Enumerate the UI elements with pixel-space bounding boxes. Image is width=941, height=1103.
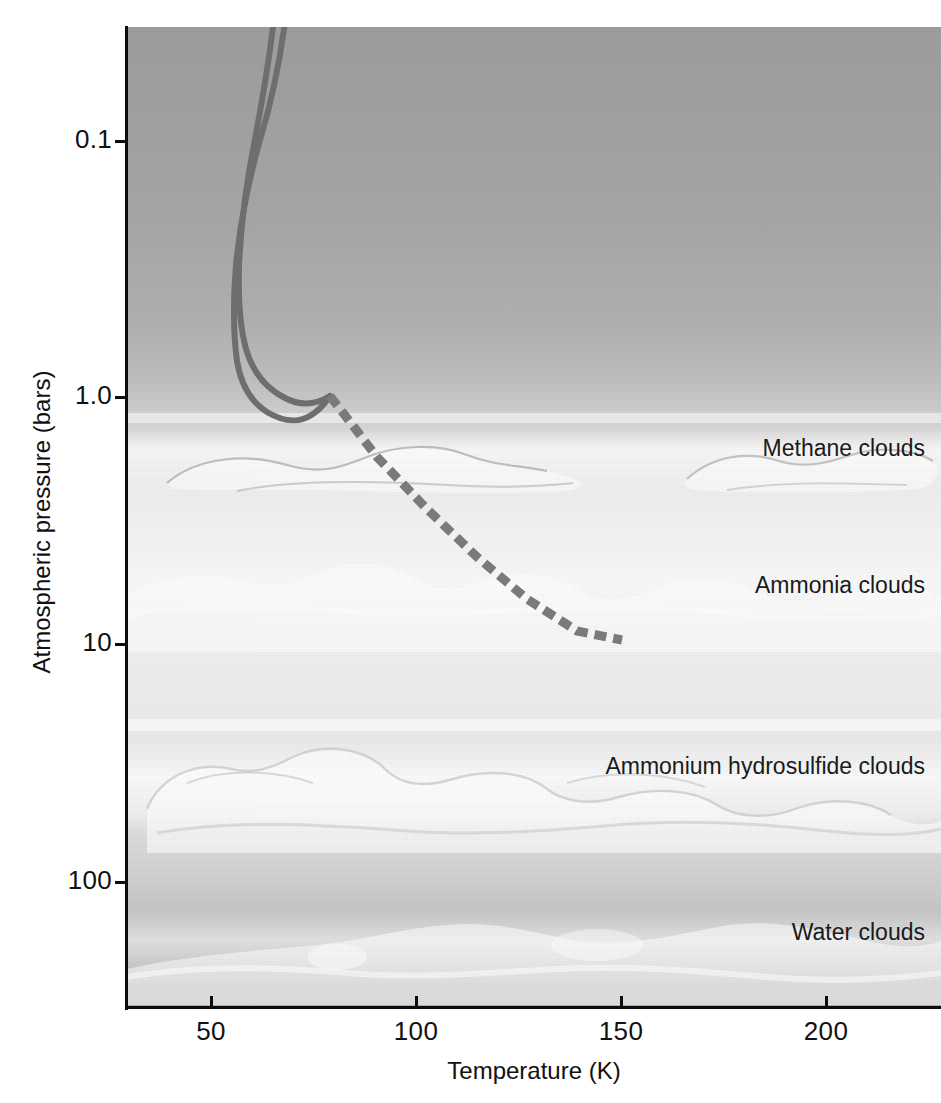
x-tick-200 — [825, 996, 828, 1009]
x-tick-label-100: 100 — [355, 1016, 477, 1047]
x-tick-50 — [210, 996, 213, 1009]
plot-area: Methane clouds Ammonia clouds Ammonium h… — [127, 27, 941, 1008]
y-tick-0.1 — [115, 140, 128, 143]
profile-solid — [239, 27, 330, 404]
x-axis-line — [125, 1006, 941, 1009]
y-tick-label-10: 10 — [0, 627, 112, 658]
y-tick-label-0.1: 0.1 — [0, 124, 112, 155]
temperature-profile-curve — [127, 27, 941, 1008]
y-tick-label-100: 100 — [0, 865, 112, 896]
cloud-label-ammonia: Ammonia clouds — [755, 572, 925, 599]
x-tick-label-150: 150 — [560, 1016, 682, 1047]
y-tick-100 — [115, 881, 128, 884]
y-tick-10 — [115, 643, 128, 646]
x-axis-title: Temperature (K) — [127, 1057, 941, 1085]
y-axis-line — [125, 26, 128, 1010]
cloud-label-ammonium-hydrosulfide: Ammonium hydrosulfide clouds — [605, 753, 925, 780]
y-tick-label-1.0: 1.0 — [0, 380, 112, 411]
x-tick-label-50: 50 — [150, 1016, 272, 1047]
x-tick-100 — [415, 996, 418, 1009]
cloud-label-methane: Methane clouds — [763, 435, 925, 462]
y-axis-title: Atmospheric pressure (bars) — [28, 332, 56, 712]
y-tick-1.0 — [115, 396, 128, 399]
profile-dashed — [330, 396, 622, 640]
atmosphere-profile-figure: Methane clouds Ammonia clouds Ammonium h… — [0, 0, 941, 1103]
cloud-label-water: Water clouds — [792, 919, 925, 946]
x-tick-150 — [620, 996, 623, 1009]
x-tick-label-200: 200 — [765, 1016, 887, 1047]
